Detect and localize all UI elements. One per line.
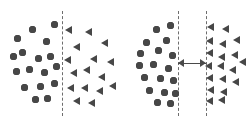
panel-left-circles-marker [14, 35, 21, 42]
segregation-figure [0, 0, 249, 124]
panel-right-circles-marker [169, 52, 176, 59]
panel-right-circles-marker [153, 26, 160, 33]
panel-left-circles-marker [43, 38, 50, 45]
panel-left-triangles-marker [98, 73, 105, 81]
panel-right-triangles-marker [219, 75, 226, 83]
panel-right-triangles-marker [219, 40, 226, 48]
arrow-head-left-icon [178, 59, 184, 67]
panel-right-circles-marker [157, 75, 164, 82]
panel-right-triangles-marker [207, 86, 214, 94]
panel-right-circles-marker [155, 47, 162, 54]
panel-left-circles-marker [53, 63, 60, 70]
panel-right-circles-marker [165, 65, 172, 72]
panel-left-circles-marker [35, 55, 42, 62]
panel-left-triangles-marker [96, 87, 103, 95]
panel-right-triangles-marker [231, 51, 238, 59]
panel-right-circles-marker [163, 37, 170, 44]
panel-left-triangles-marker [101, 39, 108, 47]
panel-right-circles-marker [172, 90, 179, 97]
panel-right-circles-marker [167, 100, 174, 107]
panel-left-triangles-marker [70, 69, 77, 77]
panel-right-circles-marker [141, 74, 148, 81]
arrow-head-right-icon [200, 59, 206, 67]
panel-right-circles-marker [137, 50, 144, 57]
panel-right-circles-marker [136, 62, 143, 69]
panel-left-circles-marker [51, 80, 58, 87]
panel-left-triangles-marker [83, 66, 90, 74]
panel-right-triangles-marker [239, 58, 246, 66]
panel-right-circles-marker [167, 22, 174, 29]
panel-left-triangles-marker [65, 26, 72, 34]
panel-left-triangles-marker [90, 55, 97, 63]
panel-left-triangles-marker [67, 84, 74, 92]
panel-left-circles-marker [37, 83, 44, 90]
panel-right-triangles-marker [206, 97, 213, 105]
panel-left-triangles-marker [107, 58, 114, 66]
panel-left-circles-marker [29, 26, 36, 33]
panel-left-triangles-marker [109, 82, 116, 90]
panel-left-circles-marker [32, 96, 39, 103]
panel-left-circles-marker [21, 84, 28, 91]
panel-right-circles-marker [146, 87, 153, 94]
panel-right-triangles-marker [229, 66, 236, 74]
panel-left-circles-marker [10, 53, 17, 60]
panel-left-triangles-marker [81, 84, 88, 92]
panel-right-circles-marker [150, 61, 157, 68]
panel-left-triangles-marker [85, 28, 92, 36]
panel-right-triangles-marker [218, 96, 225, 104]
panel-right-triangles-marker [206, 74, 213, 82]
panel-right-triangles-marker [233, 36, 240, 44]
panel-left-triangles-marker [73, 97, 80, 105]
gap-arrow [178, 59, 206, 68]
panel-right-triangles-marker [220, 88, 227, 96]
panel-right-triangles-marker [218, 53, 225, 61]
panel-left-circles-marker [47, 53, 54, 60]
panel-right-triangles-marker [206, 49, 213, 57]
panel-left-triangles-marker [88, 99, 95, 107]
panel-right-circles-marker [170, 77, 177, 84]
panel-left-circles-marker [41, 69, 48, 76]
panel-right-circles-marker [154, 99, 161, 106]
panel-right-circles-marker [161, 89, 168, 96]
panel-left-circles-marker [26, 66, 33, 73]
panel-right-triangles-marker [232, 78, 239, 86]
panel-left-circles-marker [13, 68, 20, 75]
panel-right-triangles-marker [222, 25, 229, 33]
panel-left-triangles-marker [73, 43, 80, 51]
panel-left-circles-marker [19, 49, 26, 56]
panel-right-triangles-marker [206, 37, 213, 45]
panel-right-circles-marker [143, 39, 150, 46]
panel-left-circles-marker [44, 95, 51, 102]
panel-right-triangles-marker [217, 62, 224, 70]
panel-left-triangles-marker [64, 56, 71, 64]
panel-left-circles-marker [51, 21, 58, 28]
panel-right-triangles-marker [207, 23, 214, 31]
